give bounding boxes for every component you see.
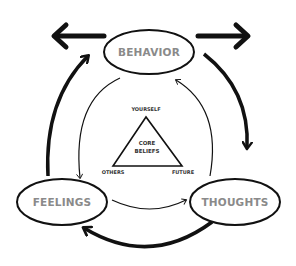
- arrow-behavior-to-feelings-inner: [79, 78, 120, 178]
- vertex-future-label: FUTURE: [172, 169, 195, 175]
- arrow-feelings-to-behavior: [48, 56, 88, 176]
- arrow-thoughts-to-behavior-inner: [176, 80, 212, 176]
- vertex-yourself-label: YOURSELF: [130, 106, 160, 112]
- vertex-others-label: OTHERS: [102, 169, 125, 175]
- outward-arrow-left: [54, 25, 104, 47]
- node-behavior: BEHAVIOR: [104, 30, 194, 74]
- node-feelings: FEELINGS: [17, 179, 107, 225]
- arrow-thoughts-to-feelings: [84, 222, 212, 247]
- core-label-line1: CORE: [139, 140, 156, 146]
- cbt-cycle-diagram: BEHAVIOR FEELINGS THOUGHTS CORE BELIEFS …: [0, 0, 296, 266]
- outward-arrow-right: [198, 25, 248, 47]
- node-thoughts-label: THOUGHTS: [201, 196, 268, 208]
- node-behavior-label: BEHAVIOR: [118, 46, 180, 58]
- core-beliefs-triangle: CORE BELIEFS YOURSELF OTHERS FUTURE: [102, 106, 195, 175]
- arrow-behavior-to-thoughts: [204, 54, 247, 148]
- core-label-line2: BELIEFS: [135, 148, 160, 154]
- node-feelings-label: FEELINGS: [33, 196, 92, 208]
- arrow-feelings-to-thoughts-inner: [112, 200, 186, 209]
- node-thoughts: THOUGHTS: [190, 179, 280, 225]
